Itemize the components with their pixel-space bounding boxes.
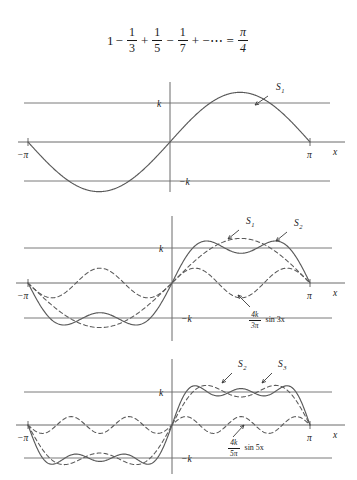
formula-fraction-3-numerator: 1 [178,26,188,40]
component-leader [233,425,244,437]
formula-result-numerator: π [238,26,248,40]
formula-fraction-2-denominator: 5 [152,40,162,55]
formula-op-2: + [139,34,150,47]
formula-fraction-1-denominator: 3 [127,40,137,55]
formula-expression: 1 − 1 3 + 1 5 − 1 7 + −⋯ = π 4 [107,26,250,54]
figure-root: 1 − 1 3 + 1 5 − 1 7 + −⋯ = π 4 −ππxk−kS [0,0,357,480]
series-formula: 1 − 1 3 + 1 5 − 1 7 + −⋯ = π 4 [0,26,357,54]
x-axis-label: x [332,288,338,298]
s1-label: S1 [228,216,255,239]
x-axis-label: x [332,430,338,440]
component-tail-panel-3: sin 5x [242,444,264,452]
component-fraction-panel-2: 4k 3π [249,311,261,330]
s2-label: S2 [276,218,303,241]
formula-fraction-3-denominator: 7 [178,40,188,55]
s2-label: S2 [222,359,247,383]
component-numerator-panel-3: 4k [228,439,239,448]
component-numerator-panel-2: 4k [249,311,260,320]
x-tick-label-pi: π [307,291,312,301]
component-label-panel-3: 4k 5π sin 5x [226,439,264,458]
formula-result-fraction: π 4 [238,26,248,54]
x-tick-label-minus-pi: −π [17,291,28,301]
x-tick-label-pi: π [307,433,312,443]
series-label-subscript: 3 [282,364,287,371]
component-fraction-panel-3: 4k 5π [228,439,240,458]
formula-result-denominator: 4 [238,40,248,55]
series-label: S1 [276,82,285,94]
formula-tail-operator: + −⋯ [190,34,225,47]
x-tick-label-minus-pi: −π [17,433,28,443]
s1-label: S1 [255,82,285,105]
leader-line [222,373,232,383]
formula-fraction-2-numerator: 1 [152,26,162,40]
component-tail-panel-2: sin 3x [263,316,285,324]
formula-equals-sign: = [225,34,236,47]
series-label: S1 [246,216,255,228]
formula-fraction-3: 1 7 [178,26,188,54]
x-axis-label: x [332,147,338,157]
leader-line [233,425,244,437]
x-tick-label-pi: π [307,150,312,160]
series-label-subscript: 2 [243,364,247,371]
component-label-panel-2: 4k 3π sin 3x [247,311,285,330]
chart-panel-1: −ππxk−kS1 [0,78,357,198]
leader-line [238,295,250,307]
leader-line [276,232,287,241]
component-denominator-panel-3: 5π [228,448,240,458]
series-label-subscript: 1 [251,221,254,228]
formula-op-3: − [164,34,175,47]
y-level-label-negative-k: −k [181,454,192,464]
formula-fraction-2: 1 5 [152,26,162,54]
component-denominator-panel-2: 3π [249,320,261,330]
s3-label: S3 [262,359,287,383]
formula-op-1: − [114,34,125,47]
series-label-subscript: 1 [281,87,284,94]
series-label: S2 [294,218,303,230]
y-level-label-negative-k: −k [179,177,190,187]
component-leader [238,295,250,307]
formula-fraction-1-numerator: 1 [127,26,137,40]
series-label: S3 [278,359,287,371]
series-label-subscript: 2 [299,223,303,230]
leader-line [262,373,272,383]
x-tick-label-minus-pi: −π [17,150,28,160]
chart-panel-3: −ππxk−kS2S3 [0,355,357,480]
y-level-label-negative-k: −k [181,314,192,324]
series-label: S2 [238,359,247,371]
leader-line [228,230,239,239]
formula-fraction-1: 1 3 [127,26,137,54]
chart-panel-2: −ππxk−kS1S2 [0,212,357,347]
